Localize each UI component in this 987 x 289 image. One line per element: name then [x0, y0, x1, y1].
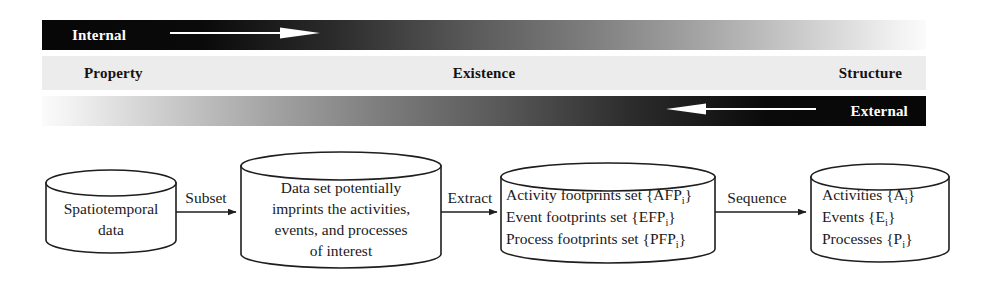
process-flow-diagram: Spatiotemporal data Subset Data set pote… — [0, 146, 987, 289]
edge-label: Subset — [185, 189, 227, 206]
axis-label-existence: Existence — [453, 65, 516, 82]
node-activities-events-processes[interactable]: Activities {Ai} Events {Ei} Processes {P… — [811, 164, 949, 262]
spectrum-panel: Internal Property Existence Structure Ex… — [42, 20, 926, 138]
edge-subset: Subset — [176, 189, 236, 212]
internal-label: Internal — [72, 27, 126, 44]
node-data-set-imprints[interactable]: Data set potentially imprints the activi… — [241, 152, 441, 268]
node-line: events, and processes — [275, 221, 408, 238]
node-line: Spatiotemporal — [64, 200, 159, 217]
internal-gradient-band: Internal — [42, 20, 926, 50]
external-label: External — [851, 103, 908, 120]
external-gradient-band: External — [42, 96, 926, 126]
edge-sequence: Sequence — [715, 189, 806, 212]
edge-label: Extract — [448, 189, 493, 206]
node-footprint-sets[interactable]: Activity footprints set {AFPi} Event foo… — [501, 163, 715, 263]
axis-label-structure: Structure — [839, 65, 902, 82]
edge-extract: Extract — [441, 189, 497, 212]
arrow-right-icon — [170, 26, 320, 44]
node-line: imprints the activities, — [272, 200, 410, 217]
node-line: data — [98, 221, 124, 238]
node-line: Data set potentially — [281, 179, 402, 196]
node-spatiotemporal-data[interactable]: Spatiotemporal data — [46, 170, 176, 253]
axis-labels-band: Property Existence Structure — [42, 56, 926, 90]
node-line: of interest — [310, 242, 373, 259]
axis-label-property: Property — [84, 65, 143, 82]
edge-label: Sequence — [727, 189, 787, 206]
arrow-left-icon — [666, 102, 816, 120]
